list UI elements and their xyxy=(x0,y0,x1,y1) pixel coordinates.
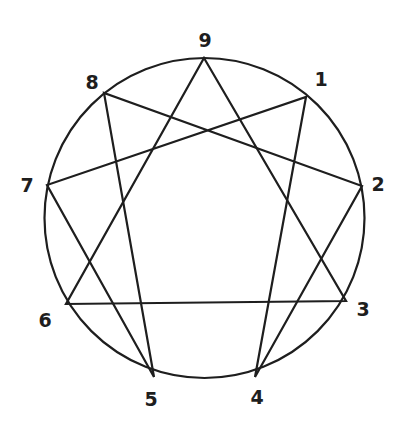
point-label-1: 1 xyxy=(314,68,327,90)
point-label-6: 6 xyxy=(38,309,51,331)
point-label-2: 2 xyxy=(371,173,384,195)
point-label-7: 7 xyxy=(20,174,33,196)
point-label-5: 5 xyxy=(144,388,157,410)
enneagram-diagram: 123456789 xyxy=(0,0,408,433)
point-label-3: 3 xyxy=(356,298,369,320)
outer-circle xyxy=(45,58,365,378)
point-label-4: 4 xyxy=(250,386,263,408)
point-label-8: 8 xyxy=(85,71,98,93)
point-label-9: 9 xyxy=(198,29,211,51)
point-labels: 123456789 xyxy=(20,29,384,410)
